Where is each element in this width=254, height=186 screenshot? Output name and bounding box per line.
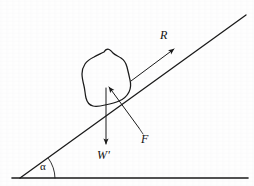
reaction-force-vector xyxy=(131,49,174,81)
friction-force-vector xyxy=(109,87,139,128)
angle-arc xyxy=(49,159,56,179)
reaction-force-label: R xyxy=(160,29,168,41)
inclined-plane-line xyxy=(20,15,246,178)
incline-angle-label: α xyxy=(40,161,46,172)
weight-force-label: Wʹ xyxy=(97,149,110,161)
figure-canvas: R F Wʹ α xyxy=(0,0,254,186)
diagram-svg xyxy=(0,0,254,186)
friction-force-label: F xyxy=(141,133,149,145)
